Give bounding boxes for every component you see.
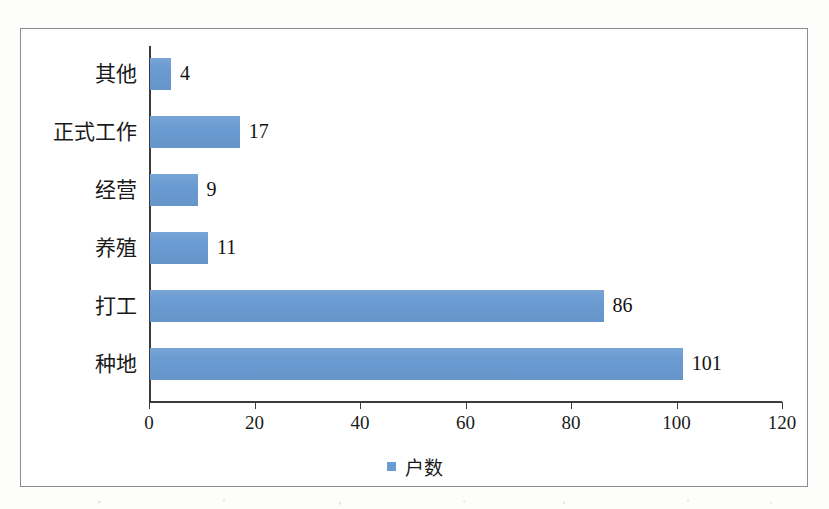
axis-tick-label-4: 80	[562, 412, 581, 434]
scan-noise-artifact	[0, 495, 829, 509]
bar[interactable]	[150, 232, 208, 264]
axis-tick-4	[571, 402, 572, 409]
axis-tick-label-1: 20	[245, 412, 264, 434]
bar-row: 经营 9	[150, 174, 782, 206]
axis-tick-label-5: 100	[662, 412, 691, 434]
axis-tick-0	[149, 402, 150, 409]
chart-frame: 0 20 40 60 80 100 120 其他 4 正式工作 17	[20, 28, 808, 487]
bar[interactable]	[150, 58, 171, 90]
axis-tick-label-3: 60	[456, 412, 475, 434]
category-label: 打工	[95, 289, 137, 323]
bar-row: 养殖 11	[150, 232, 782, 264]
legend-color-swatch-icon	[387, 462, 396, 471]
bar[interactable]	[150, 348, 683, 380]
axis-tick-5	[677, 402, 678, 409]
category-label: 养殖	[95, 231, 137, 265]
bar-value-label: 9	[207, 178, 217, 201]
bar-row: 其他 4	[150, 58, 782, 90]
category-label: 经营	[95, 173, 137, 207]
bar-row: 打工 86	[150, 290, 782, 322]
axis-tick-2	[360, 402, 361, 409]
legend-series-label: 户数	[405, 453, 443, 480]
bar-value-label: 17	[249, 120, 269, 143]
bar-value-label: 11	[217, 236, 236, 259]
category-label: 其他	[95, 57, 137, 91]
scanned-page: 0 20 40 60 80 100 120 其他 4 正式工作 17	[0, 0, 829, 509]
axis-tick-label-6: 120	[768, 412, 797, 434]
bar[interactable]	[150, 174, 198, 206]
chart-legend: 户数	[21, 453, 809, 480]
axis-tick-label-0: 0	[144, 412, 154, 434]
bar-row: 种地 101	[150, 348, 782, 380]
category-label: 种地	[95, 347, 137, 381]
axis-tick-1	[255, 402, 256, 409]
bar-value-label: 101	[692, 352, 722, 375]
bar[interactable]	[150, 116, 240, 148]
bar-value-label: 86	[613, 294, 633, 317]
bar[interactable]	[150, 290, 604, 322]
axis-tick-6	[782, 402, 783, 409]
axis-tick-label-2: 40	[351, 412, 370, 434]
bar-value-label: 4	[180, 62, 190, 85]
category-label: 正式工作	[53, 115, 137, 149]
axis-tick-3	[466, 402, 467, 409]
plot-area: 0 20 40 60 80 100 120 其他 4 正式工作 17	[21, 29, 809, 488]
bar-row: 正式工作 17	[150, 116, 782, 148]
